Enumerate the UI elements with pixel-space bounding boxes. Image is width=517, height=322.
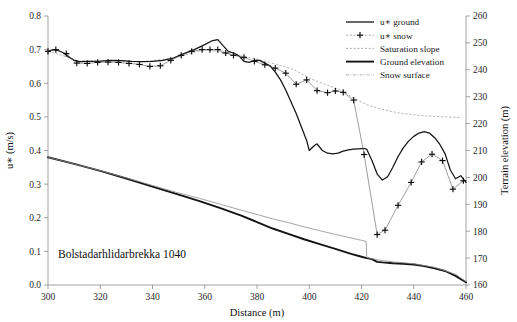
data-point-marker <box>332 88 338 94</box>
series-ground-elevation <box>48 157 466 282</box>
y-left-tick-label: 0.7 <box>29 45 41 55</box>
data-point-marker <box>157 63 163 69</box>
y-right-tick-label: 220 <box>473 119 488 129</box>
legend-item: Saturation slope <box>346 44 439 54</box>
legend-label: u∗ snow <box>380 31 413 41</box>
y-left-axis-title: u∗ (m/s) <box>4 131 16 169</box>
y-right-tick-label: 230 <box>473 92 488 102</box>
legend-item: u∗ snow <box>346 31 413 41</box>
x-tick-label: 440 <box>407 292 422 302</box>
x-tick-label: 320 <box>93 292 108 302</box>
y-right-tick-label: 170 <box>473 254 488 264</box>
x-tick-label: 460 <box>459 292 474 302</box>
legend-label: Snow surface <box>380 70 430 80</box>
y-left-tick-label: 0.6 <box>29 79 41 89</box>
legend-item: Ground elevation <box>346 57 444 67</box>
x-tick-label: 380 <box>250 292 265 302</box>
x-tick-label: 400 <box>302 292 317 302</box>
data-point-marker <box>340 89 346 95</box>
data-point-marker <box>429 151 435 157</box>
chart-canvas: u∗ groundu∗ snowSaturation slopeGround e… <box>0 0 517 322</box>
data-point-marker <box>382 227 388 233</box>
y-left-tick-label: 0.1 <box>29 247 41 257</box>
chart-legend: u∗ groundu∗ snowSaturation slopeGround e… <box>346 17 444 80</box>
data-point-marker <box>147 63 153 69</box>
x-tick-label: 360 <box>198 292 213 302</box>
data-point-marker <box>45 48 51 54</box>
site-annotation-label: Bolstadarhlidarbrekka 1040 <box>58 248 186 260</box>
data-point-marker <box>95 59 101 65</box>
legend-label: u∗ ground <box>380 17 420 27</box>
x-axis-title: Distance (m) <box>230 307 285 319</box>
legend-label: Saturation slope <box>380 44 439 54</box>
legend-label: Ground elevation <box>380 57 444 67</box>
data-point-marker <box>53 47 59 53</box>
y-left-tick-label: 0.3 <box>29 180 41 190</box>
legend-item: Snow surface <box>346 70 430 80</box>
data-point-marker <box>361 151 367 157</box>
y-right-axis-title: Terrain elevation (m) <box>499 105 511 195</box>
x-tick-label: 340 <box>145 292 160 302</box>
data-point-marker <box>207 47 213 53</box>
legend-plus-icon <box>357 32 363 38</box>
data-point-marker <box>460 178 466 184</box>
legend-item: u∗ ground <box>346 17 420 27</box>
data-point-marker <box>374 231 380 237</box>
x-tick-label: 300 <box>41 292 56 302</box>
y-right-tick-label: 160 <box>473 280 488 290</box>
y-right-tick-label: 210 <box>473 146 488 156</box>
y-left-tick-label: 0.4 <box>29 146 41 156</box>
data-point-marker <box>408 179 414 185</box>
data-point-marker <box>324 90 330 96</box>
data-point-marker <box>439 157 445 163</box>
data-point-marker <box>418 159 424 165</box>
data-point-marker <box>215 47 221 53</box>
y-right-tick-label: 200 <box>473 173 488 183</box>
y-right-tick-label: 190 <box>473 200 488 210</box>
y-right-tick-label: 250 <box>473 38 488 48</box>
data-point-marker <box>230 52 236 58</box>
y-left-tick-label: 0.8 <box>29 11 41 21</box>
figure-container: u∗ groundu∗ snowSaturation slopeGround e… <box>0 0 517 322</box>
x-tick-label: 420 <box>354 292 369 302</box>
y-left-tick-label: 0.0 <box>29 280 41 290</box>
data-point-marker <box>395 202 401 208</box>
y-left-tick-label: 0.5 <box>29 112 41 122</box>
series-snow-surface <box>48 157 466 282</box>
data-point-marker <box>351 97 357 103</box>
y-right-tick-label: 260 <box>473 11 488 21</box>
y-right-tick-label: 240 <box>473 65 488 75</box>
y-right-tick-label: 180 <box>473 227 488 237</box>
y-left-tick-label: 0.2 <box>29 213 41 223</box>
data-point-marker <box>450 186 456 192</box>
